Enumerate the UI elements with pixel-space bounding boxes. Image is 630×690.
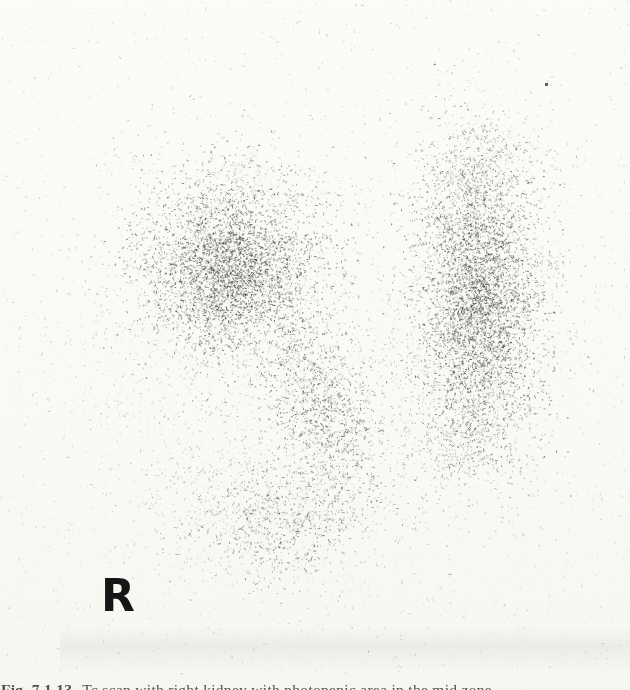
scan-figure: R Fig. 7.1.13Tc scan with right kidney w… [0,0,630,690]
figure-caption-number: Fig. 7.1.13 [1,681,72,690]
orientation-marker-r: R [101,574,135,618]
scintigram-canvas [0,0,630,690]
figure-caption: Fig. 7.1.13Tc scan with right kidney wit… [1,682,629,690]
figure-caption-text: Tc scan with right kidney with photopeni… [82,681,492,690]
